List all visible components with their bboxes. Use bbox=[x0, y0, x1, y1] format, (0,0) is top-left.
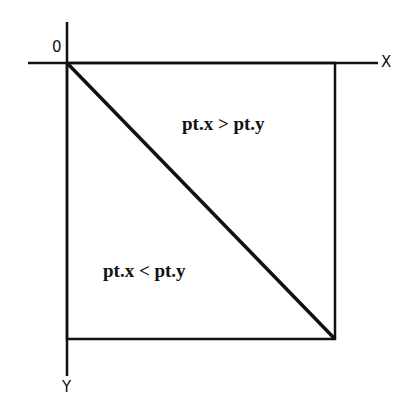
origin-label: 0 bbox=[52, 38, 62, 56]
x-axis-label: X bbox=[381, 53, 391, 71]
diagonal-line bbox=[67, 63, 335, 339]
y-axis-label: Y bbox=[62, 378, 71, 396]
lower-region-label: pt.x < pt.y bbox=[103, 260, 186, 282]
diagram-canvas bbox=[0, 0, 417, 415]
upper-region-label: pt.x > pt.y bbox=[182, 113, 265, 135]
